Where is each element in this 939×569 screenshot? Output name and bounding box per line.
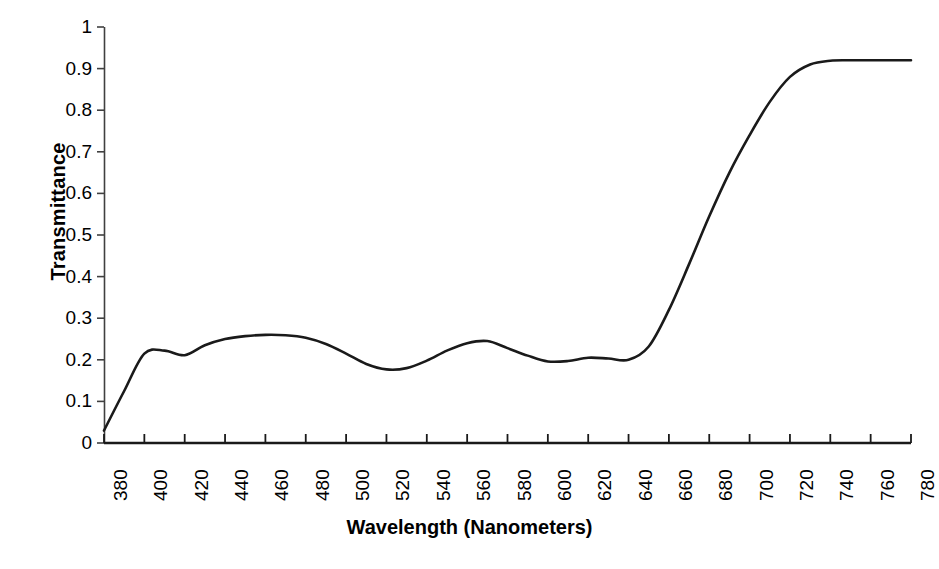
chart-figure: Transmittance 00.10.20.30.40.50.60.70.80… — [0, 0, 939, 569]
plot-area — [0, 0, 939, 569]
y-axis-ticks — [97, 27, 104, 443]
data-line-transmittance — [104, 60, 911, 430]
x-axis-ticks — [104, 434, 911, 443]
x-axis-title: Wavelength (Nanometers) — [0, 516, 939, 539]
figure-caption — [28, 551, 918, 565]
axis-lines — [104, 27, 911, 444]
